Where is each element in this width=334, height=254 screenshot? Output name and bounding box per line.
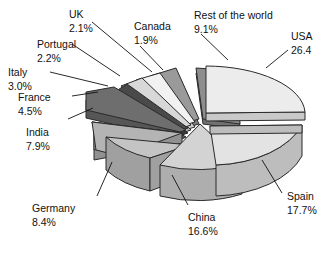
- label-canada-value: 1.9%: [134, 34, 158, 46]
- pie-chart-canvas: UK 2.1% Canada 1.9% Rest of the world 9.…: [0, 0, 334, 254]
- label-china-name: China: [188, 211, 216, 223]
- label-india: India 7.9%: [26, 126, 50, 152]
- label-uk-name: UK: [69, 8, 84, 20]
- leader-line-rest-of-the-world: [201, 34, 228, 60]
- leader-line-usa: [266, 50, 288, 68]
- label-spain: Spain 17.7%: [287, 190, 317, 216]
- pie-slice-usa[interactable]: [206, 66, 305, 121]
- label-france: France 4.5%: [18, 91, 51, 117]
- label-italy: Italy 3.0%: [8, 66, 32, 92]
- leader-line-canada: [140, 46, 163, 70]
- label-india-value: 7.9%: [26, 140, 50, 152]
- label-rest-of-the-world: Rest of the world 9.1%: [194, 9, 273, 35]
- leader-line-portugal: [72, 44, 120, 76]
- pie-slice-spain[interactable]: [210, 125, 302, 196]
- label-canada: Canada 1.9%: [134, 20, 171, 46]
- label-france-value: 4.5%: [18, 105, 42, 117]
- label-usa-name: USA: [291, 30, 313, 42]
- leader-line-germany: [97, 162, 112, 196]
- label-china-value: 16.6%: [188, 225, 218, 237]
- label-rest-of-the-world-value: 9.1%: [194, 23, 218, 35]
- label-france-name: France: [18, 91, 51, 103]
- label-uk: UK 2.1%: [69, 8, 93, 34]
- label-spain-value: 17.7%: [287, 204, 317, 216]
- label-rest-of-the-world-name: Rest of the world: [194, 9, 273, 21]
- label-portugal-name: Portugal: [37, 38, 76, 50]
- label-portugal-value: 2.2%: [37, 52, 61, 64]
- label-germany: Germany 8.4%: [32, 202, 76, 228]
- label-uk-value: 2.1%: [69, 22, 93, 34]
- label-germany-name: Germany: [32, 202, 76, 214]
- pie-slices: [86, 66, 305, 201]
- label-italy-name: Italy: [8, 66, 28, 78]
- label-usa: USA 26.4: [291, 30, 313, 56]
- label-canada-name: Canada: [134, 20, 171, 32]
- label-china: China 16.6%: [188, 211, 218, 237]
- label-germany-value: 8.4%: [32, 216, 56, 228]
- pie-chart-figure: UK 2.1% Canada 1.9% Rest of the world 9.…: [0, 0, 334, 254]
- leader-line-italy: [50, 72, 108, 86]
- label-spain-name: Spain: [287, 190, 314, 202]
- label-portugal: Portugal 2.2%: [37, 38, 76, 64]
- label-usa-value: 26.4: [291, 44, 312, 56]
- label-india-name: India: [26, 126, 49, 138]
